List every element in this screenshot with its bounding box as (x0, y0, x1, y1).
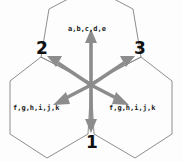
vertex-number-2: 2 (36, 38, 48, 58)
arrow-lower-right (91, 85, 129, 105)
arrow-down (85, 85, 97, 133)
vertex-number-3: 3 (134, 38, 146, 58)
cell-label-bottom-left: f,g,h,i,j,k (13, 104, 59, 112)
vertex-number-1: 1 (86, 132, 98, 152)
cell-label-top: a,b,c,d,e (68, 25, 106, 33)
arrow-up (85, 29, 97, 85)
diagram-canvas: a,b,c,d,e f,g,h,i,j,k f,g,h,i,j,k 1 2 3 (0, 0, 183, 162)
arrow-lower-left (53, 85, 91, 105)
arrow-upper-right (91, 56, 135, 85)
cell-label-bottom-right: f,g,h,i,j,k (109, 104, 155, 112)
arrow-upper-left (47, 56, 91, 85)
